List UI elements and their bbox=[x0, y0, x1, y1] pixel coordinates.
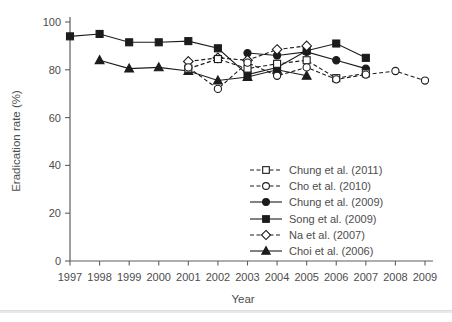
legend-item-cho-2010: Cho et al. (2010) bbox=[248, 178, 383, 194]
filled-square-marker-icon bbox=[214, 45, 221, 52]
legend-label: Song et al. (2009) bbox=[289, 213, 376, 225]
legend-item-na-2007: Na et al. (2007) bbox=[248, 227, 383, 243]
y-tick-label: 0 bbox=[55, 255, 61, 267]
figure: 1997199819992000200120022003200420052006… bbox=[0, 0, 452, 322]
filled-square-marker-icon bbox=[263, 215, 270, 222]
y-tick-label: 100 bbox=[43, 16, 61, 28]
open-circle-marker-icon bbox=[421, 77, 428, 84]
filled-square-marker-icon bbox=[155, 39, 162, 46]
y-tick-label: 60 bbox=[49, 112, 61, 124]
x-tick-label: 2003 bbox=[235, 271, 259, 283]
legend-sample-svg bbox=[248, 228, 284, 242]
filled-square-marker-icon bbox=[67, 33, 74, 40]
filled-circle-marker-icon bbox=[333, 57, 340, 64]
legend-sample-choi-2006 bbox=[248, 244, 284, 258]
x-tick-label: 2008 bbox=[383, 271, 407, 283]
legend: Chung et al. (2011) Cho et al. (2010) Ch… bbox=[248, 162, 383, 259]
legend-sample-svg bbox=[248, 179, 284, 193]
x-tick-label: 1999 bbox=[117, 271, 141, 283]
legend-sample-svg bbox=[248, 244, 284, 258]
x-tick-label: 2004 bbox=[265, 271, 289, 283]
legend-sample-chung-2011 bbox=[248, 163, 284, 177]
open-circle-marker-icon bbox=[273, 72, 280, 79]
x-tick-label: 2009 bbox=[413, 271, 437, 283]
legend-item-song-2009: Song et al. (2009) bbox=[248, 211, 383, 227]
x-axis-title: Year bbox=[231, 293, 254, 305]
x-tick-label: 1998 bbox=[87, 271, 111, 283]
legend-label: Chung et al. (2011) bbox=[289, 164, 382, 176]
open-circle-marker-icon bbox=[362, 71, 369, 78]
open-diamond-marker-icon bbox=[272, 45, 282, 55]
legend-item-choi-2006: Choi et al. (2006) bbox=[248, 243, 383, 259]
page-divider-line bbox=[0, 310, 452, 313]
legend-sample-cho-2010 bbox=[248, 179, 284, 193]
filled-triangle-marker-icon bbox=[262, 247, 270, 255]
legend-sample-svg bbox=[248, 212, 284, 226]
open-square-marker-icon bbox=[303, 57, 310, 64]
filled-square-marker-icon bbox=[362, 54, 369, 61]
filled-square-marker-icon bbox=[96, 30, 103, 37]
x-tick-label: 2002 bbox=[206, 271, 230, 283]
open-circle-marker-icon bbox=[333, 76, 340, 83]
open-square-marker-icon bbox=[263, 167, 270, 174]
filled-triangle-marker-icon bbox=[154, 63, 163, 71]
legend-sample-svg bbox=[248, 163, 284, 177]
legend-label: Chung et al. (2009) bbox=[289, 196, 383, 208]
open-square-marker-icon bbox=[214, 56, 221, 63]
filled-square-marker-icon bbox=[126, 39, 133, 46]
filled-square-marker-icon bbox=[185, 38, 192, 45]
open-circle-marker-icon bbox=[244, 59, 251, 66]
open-circle-marker-icon bbox=[214, 85, 221, 92]
legend-label: Cho et al. (2010) bbox=[289, 180, 371, 192]
open-square-marker-icon bbox=[274, 60, 281, 67]
open-circle-marker-icon bbox=[185, 64, 192, 71]
filled-triangle-marker-icon bbox=[95, 56, 104, 64]
filled-square-marker-icon bbox=[333, 40, 340, 47]
filled-circle-marker-icon bbox=[263, 199, 270, 206]
y-tick-label: 20 bbox=[49, 207, 61, 219]
chart-plot: 1997199819992000200120022003200420052006… bbox=[0, 0, 452, 322]
legend-item-chung-2011: Chung et al. (2011) bbox=[248, 162, 383, 178]
legend-sample-svg bbox=[248, 195, 284, 209]
x-tick-label: 2006 bbox=[324, 271, 348, 283]
y-axis-title: Eradication rate (%) bbox=[10, 90, 22, 192]
legend-item-chung-2009: Chung et al. (2009) bbox=[248, 194, 383, 210]
x-tick-label: 2005 bbox=[294, 271, 318, 283]
x-tick-label: 2001 bbox=[176, 271, 200, 283]
x-tick-label: 2007 bbox=[354, 271, 378, 283]
legend-sample-song-2009 bbox=[248, 212, 284, 226]
legend-sample-chung-2009 bbox=[248, 195, 284, 209]
legend-label: Na et al. (2007) bbox=[289, 229, 365, 241]
y-tick-label: 40 bbox=[49, 159, 61, 171]
open-circle-marker-icon bbox=[392, 67, 399, 74]
x-tick-label: 1997 bbox=[58, 271, 82, 283]
open-diamond-marker-icon bbox=[261, 230, 270, 239]
legend-sample-na-2007 bbox=[248, 228, 284, 242]
open-circle-marker-icon bbox=[263, 183, 270, 190]
y-tick-label: 80 bbox=[49, 64, 61, 76]
open-circle-marker-icon bbox=[303, 64, 310, 71]
x-tick-label: 2000 bbox=[147, 271, 171, 283]
legend-label: Choi et al. (2006) bbox=[289, 245, 373, 257]
